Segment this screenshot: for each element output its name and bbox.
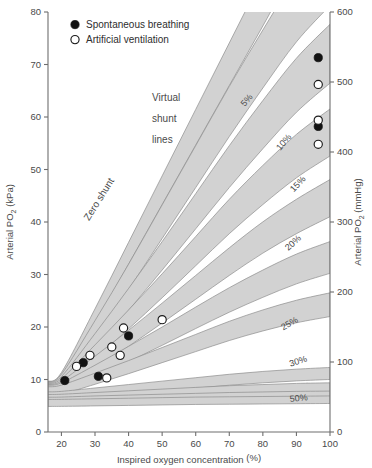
x-axis-title: Inspired oxygen concentration (%) (117, 452, 261, 466)
data-point-spontaneous (94, 372, 102, 380)
data-point-ventilated (314, 80, 322, 88)
iso-shunt-diagram: 0102030405060708001002003004005006002030… (0, 0, 372, 468)
y-tick-label-right: 200 (337, 286, 353, 297)
legend-marker-open (71, 36, 79, 44)
x-tick-label: 90 (291, 438, 302, 449)
band-label-30: 30% (288, 354, 308, 369)
data-point-spontaneous (124, 332, 132, 340)
x-tick-label: 100 (322, 438, 338, 449)
data-point-ventilated (72, 362, 80, 370)
data-point-spontaneous (314, 54, 322, 62)
virtual-shunt-annotation-line2: lines (152, 134, 173, 145)
y-tick-label-left: 0 (36, 426, 41, 437)
x-tick-label: 30 (90, 438, 101, 449)
x-tick-label: 60 (190, 438, 201, 449)
data-point-ventilated (86, 351, 94, 359)
y-tick-label-right: 600 (337, 6, 353, 17)
x-tick-label: 80 (258, 438, 269, 449)
data-point-spontaneous (61, 376, 69, 384)
chart-svg: 0102030405060708001002003004005006002030… (0, 0, 372, 468)
legend-marker-filled (71, 21, 79, 29)
data-point-ventilated (158, 316, 166, 324)
data-point-ventilated (116, 351, 124, 359)
y-tick-label-left: 40 (30, 216, 41, 227)
x-tick-label: 40 (123, 438, 134, 449)
data-point-ventilated (314, 116, 322, 124)
y-tick-label-left: 70 (30, 59, 41, 70)
y-tick-label-left: 20 (30, 321, 41, 332)
x-tick-label: 20 (56, 438, 67, 449)
virtual-shunt-annotation-line0: Virtual (152, 92, 180, 103)
legend-label: Artificial ventilation (86, 34, 169, 45)
data-point-ventilated (108, 343, 116, 351)
y-tick-label-right: 100 (337, 356, 353, 367)
y-tick-label-left: 30 (30, 269, 41, 280)
zero-shunt-annotation: Zero shunt (81, 176, 116, 223)
data-point-ventilated (314, 140, 322, 148)
band-label-50: 50% (289, 392, 308, 404)
y-tick-label-left: 60 (30, 111, 41, 122)
data-point-ventilated (119, 324, 127, 332)
legend: Spontaneous breathingArtificial ventilat… (71, 19, 190, 45)
y-tick-label-right: 300 (337, 216, 353, 227)
y-tick-label-right: 400 (337, 146, 353, 157)
legend-label: Spontaneous breathing (86, 19, 189, 30)
y-axis-title-left: Arterial PO2 (kPa) (4, 184, 17, 260)
x-tick-label: 70 (224, 438, 235, 449)
y-tick-label-right: 500 (337, 76, 353, 87)
y-tick-label-left: 50 (30, 164, 41, 175)
y-tick-label-left: 10 (30, 374, 41, 385)
data-point-ventilated (103, 374, 111, 382)
y-tick-label-right: 0 (337, 426, 342, 437)
x-tick-label: 50 (157, 438, 168, 449)
y-axis-title-right: Arterial PO2 (mmHg) (352, 178, 365, 265)
virtual-shunt-annotation-line1: shunt (152, 113, 177, 124)
y-tick-label-left: 80 (30, 6, 41, 17)
